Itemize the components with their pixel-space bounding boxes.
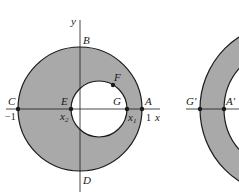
annulus-diagram: y B F C −1 E x2 G x1 A 1 x D G′ A′ xyxy=(0,0,239,196)
label-D: D xyxy=(82,174,91,186)
label-E: E xyxy=(60,95,68,107)
label-B: B xyxy=(83,34,90,46)
label-G-prime: G′ xyxy=(186,95,197,107)
point-C xyxy=(16,107,20,111)
y-axis-label: y xyxy=(70,15,76,27)
label-F: F xyxy=(113,71,121,83)
tick-one: 1 xyxy=(146,112,151,123)
point-G-prime xyxy=(198,107,202,111)
point-A-prime xyxy=(222,107,226,111)
label-A: A xyxy=(144,95,152,107)
label-A-prime: A′ xyxy=(225,95,236,107)
point-F xyxy=(111,83,115,87)
tick-neg-one: −1 xyxy=(5,111,16,122)
point-A xyxy=(140,107,144,111)
label-G: G xyxy=(113,95,121,107)
x-axis-label: x xyxy=(154,111,160,123)
point-E xyxy=(69,107,73,111)
label-C: C xyxy=(8,95,16,107)
